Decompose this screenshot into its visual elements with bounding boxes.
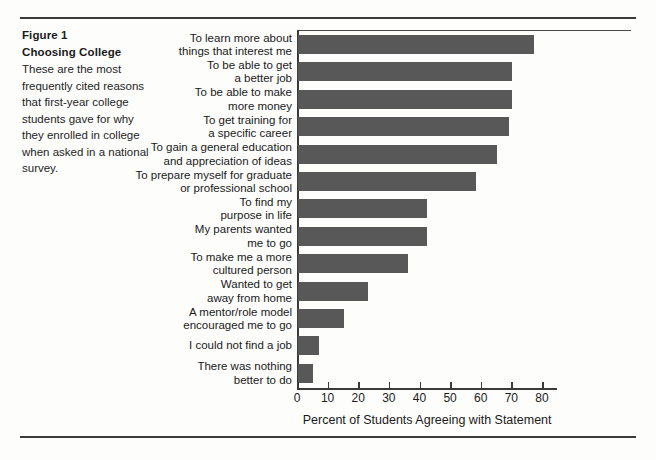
- bar: [298, 282, 368, 301]
- bar-row: I could not find a job: [298, 336, 319, 355]
- bar-category-label: I could not find a job: [0, 339, 292, 353]
- bar-row: To be able to get a better job: [298, 62, 512, 81]
- x-axis-tick: [297, 382, 299, 389]
- bottom-divider-rule: [20, 436, 636, 438]
- bar-category-label: To gain a general education and apprecia…: [0, 141, 292, 168]
- bar-row: To get training for a specific career: [298, 117, 509, 136]
- bar: [298, 172, 476, 191]
- bar: [298, 199, 427, 218]
- x-axis-tick: [389, 382, 391, 389]
- bar: [298, 254, 408, 273]
- bar: [298, 35, 534, 54]
- x-axis-tick: [481, 382, 483, 389]
- bar: [298, 309, 344, 328]
- bar-chart-plot-area: To learn more about things that interest…: [297, 30, 631, 388]
- bar-category-label: Wanted to get away from home: [0, 278, 292, 305]
- x-axis-tick-label: 0: [294, 391, 301, 405]
- bar-row: To be able to make more money: [298, 90, 512, 109]
- bar-category-label: To get training for a specific career: [0, 113, 292, 140]
- x-axis-line: [297, 388, 557, 390]
- bar-row: To make me a more cultured person: [298, 254, 408, 273]
- bar-row: There was nothing better to do: [298, 364, 313, 383]
- bar-row: A mentor/role model encouraged me to go: [298, 309, 344, 328]
- bar-row: To learn more about things that interest…: [298, 35, 534, 54]
- plot-top-border: [297, 30, 631, 31]
- x-axis-tick: [328, 382, 330, 389]
- x-axis-tick: [420, 382, 422, 389]
- bar-row: To prepare myself for graduate or profes…: [298, 172, 476, 191]
- x-axis-tick-label: 70: [505, 391, 518, 405]
- bar: [298, 90, 512, 109]
- bar-category-label: To be able to make more money: [0, 86, 292, 113]
- x-axis-tick-label: 60: [474, 391, 487, 405]
- x-axis-tick: [542, 382, 544, 389]
- figure-container: Figure 1 Choosing College These are the …: [0, 0, 656, 460]
- bar-category-label: My parents wanted me to go: [0, 223, 292, 250]
- bar: [298, 336, 319, 355]
- top-divider-rule: [20, 17, 636, 19]
- bar-row: To find my purpose in life: [298, 199, 427, 218]
- x-axis-tick: [511, 382, 513, 389]
- bar-row: My parents wanted me to go: [298, 227, 427, 246]
- bar-row: Wanted to get away from home: [298, 282, 368, 301]
- x-axis-tick-label: 50: [443, 391, 456, 405]
- x-axis-title: Percent of Students Agreeing with Statem…: [297, 413, 557, 427]
- bar: [298, 117, 509, 136]
- x-axis-tick-label: 20: [352, 391, 365, 405]
- x-axis-tick-label: 40: [413, 391, 426, 405]
- x-axis-tick-label: 80: [535, 391, 548, 405]
- x-axis-tick-label: 30: [382, 391, 395, 405]
- bar-category-label: To learn more about things that interest…: [0, 31, 292, 58]
- bar-category-label: A mentor/role model encouraged me to go: [0, 305, 292, 332]
- bar: [298, 227, 427, 246]
- x-axis-tick: [358, 382, 360, 389]
- bar: [298, 364, 313, 383]
- bar-category-label: To make me a more cultured person: [0, 250, 292, 277]
- x-axis-tick-label: 10: [321, 391, 334, 405]
- bar-category-label: To prepare myself for graduate or profes…: [0, 168, 292, 195]
- x-axis-tick: [450, 382, 452, 389]
- bar-category-label: There was nothing better to do: [0, 360, 292, 387]
- bar-row: To gain a general education and apprecia…: [298, 145, 497, 164]
- bar-category-label: To find my purpose in life: [0, 195, 292, 222]
- bar: [298, 145, 497, 164]
- bar-category-label: To be able to get a better job: [0, 58, 292, 85]
- bar: [298, 62, 512, 81]
